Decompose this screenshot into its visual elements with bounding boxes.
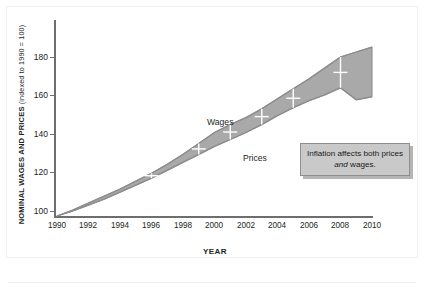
y-tick-mark-120 (50, 172, 54, 173)
figure-footer-rule (8, 282, 416, 283)
prices-label: Prices (243, 153, 267, 163)
callout-text: Inflation affects both prices and wages. (305, 149, 405, 171)
callout-text-after: wages. (348, 160, 376, 169)
wages-label: Wages (207, 117, 233, 127)
y-tick-label-180: 180 (14, 52, 48, 62)
callout-box: Inflation affects both prices and wages. (300, 143, 410, 176)
y-tick-label-140: 140 (14, 129, 48, 139)
callout-text-emphasis: and (334, 160, 348, 169)
y-tick-mark-160 (50, 95, 54, 96)
x-axis-line (55, 216, 373, 218)
y-tick-mark-100 (50, 211, 54, 212)
y-tick-label-100: 100 (14, 206, 48, 216)
y-tick-label-120: 120 (14, 167, 48, 177)
y-tick-label-160: 160 (14, 90, 48, 100)
callout-text-before: Inflation affects both prices (307, 149, 403, 158)
y-tick-mark-140 (50, 134, 54, 135)
y-tick-mark-180 (50, 57, 54, 58)
y-axis-title: NOMINAL WAGES AND PRICES (indexed to 199… (17, 15, 26, 235)
chart-figure: NOMINAL WAGES AND PRICES (indexed to 199… (0, 0, 426, 290)
x-tick-label-2010: 2010 (352, 221, 392, 230)
x-axis-title: YEAR (55, 247, 375, 256)
y-axis-line (54, 20, 56, 218)
